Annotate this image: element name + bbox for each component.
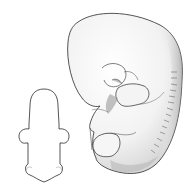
embryo-figure: [0, 0, 196, 195]
lower-limb-bud: [93, 133, 120, 157]
embryo-outline-shape: [19, 89, 69, 182]
lateral-shaded-view: [68, 13, 183, 173]
dorsal-outline-view: [19, 89, 69, 182]
upper-limb-bud: [116, 84, 149, 106]
embryo-illustration: [0, 0, 196, 195]
